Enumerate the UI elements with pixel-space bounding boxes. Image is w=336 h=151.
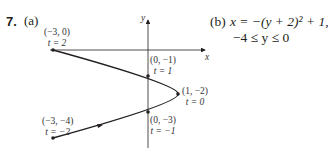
part-b-label: (b) [210, 14, 226, 30]
y-axis-label: y [141, 13, 145, 24]
part-b-equation: x = −(y + 2)² + 1, [230, 14, 329, 30]
point-label-tm1: (0, −3)t = −1 [150, 115, 176, 137]
point-t0 [176, 92, 180, 96]
x-axis-label: x [205, 52, 209, 63]
point-label-t0: (1, −2)t = 0 [182, 86, 208, 108]
point-label-t2: (−3, 0)t = 2 [44, 27, 70, 49]
point-label-tm2: (−3, −4)t = −2 [42, 116, 73, 138]
point-label-t1: (0, −1)t = 1 [150, 55, 176, 77]
part-b-domain: −4 ≤ y ≤ 0 [233, 30, 289, 46]
point-tm1 [146, 110, 150, 114]
